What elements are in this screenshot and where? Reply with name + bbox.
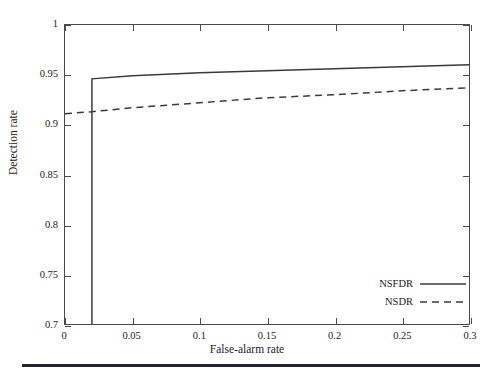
y-axis-label: Detection rate — [8, 110, 20, 175]
legend-line-sample — [420, 297, 466, 307]
y-tick-label: 0.8 — [22, 219, 58, 230]
x-tick — [336, 318, 337, 324]
y-tick — [65, 276, 71, 277]
y-tick-label: 1 — [22, 19, 58, 30]
legend-item-nsdr: NSDR — [358, 294, 466, 310]
y-tick-label: 0.85 — [22, 169, 58, 180]
legend-item-nsfdr: NSFDR — [358, 276, 466, 292]
x-axis-label: False-alarm rate — [0, 344, 494, 356]
y-tick — [463, 226, 469, 227]
legend-label: NSFDR — [379, 279, 413, 290]
bottom-rule — [22, 364, 480, 367]
legend: NSFDRNSDR — [358, 276, 466, 316]
y-tick — [65, 326, 71, 327]
y-tick — [65, 25, 71, 26]
x-tick — [200, 318, 201, 324]
x-tick-label: 0.05 — [122, 331, 140, 342]
x-tick-label: 0 — [61, 331, 66, 342]
y-tick-label: 0.9 — [22, 119, 58, 130]
y-tick — [65, 226, 71, 227]
y-tick-label: 0.7 — [22, 320, 58, 331]
y-tick — [65, 75, 71, 76]
series-line-nsdr — [65, 88, 469, 114]
y-tick-label: 0.95 — [22, 69, 58, 80]
x-tick-label: 0.3 — [463, 331, 476, 342]
legend-line-sample — [420, 279, 466, 289]
y-tick — [65, 176, 71, 177]
y-tick — [463, 326, 469, 327]
x-tick-label: 0.15 — [258, 331, 276, 342]
y-tick — [463, 25, 469, 26]
x-tick — [65, 318, 66, 324]
x-tick — [403, 25, 404, 31]
x-tick-label: 0.1 — [193, 331, 206, 342]
x-tick — [268, 318, 269, 324]
y-tick — [463, 176, 469, 177]
x-tick — [471, 318, 472, 324]
y-tick — [65, 125, 71, 126]
y-tick — [463, 75, 469, 76]
x-tick — [403, 318, 404, 324]
x-tick — [336, 25, 337, 31]
x-tick — [268, 25, 269, 31]
x-tick — [133, 25, 134, 31]
x-tick — [200, 25, 201, 31]
roc-figure: Detection rate 00.050.10.150.20.250.3 0.… — [0, 0, 494, 373]
y-tick-label: 0.75 — [22, 270, 58, 281]
x-tick-label: 0.2 — [328, 331, 341, 342]
x-tick — [471, 25, 472, 31]
x-tick — [133, 318, 134, 324]
y-tick — [463, 125, 469, 126]
x-tick-label: 0.25 — [393, 331, 411, 342]
legend-label: NSDR — [385, 297, 413, 308]
